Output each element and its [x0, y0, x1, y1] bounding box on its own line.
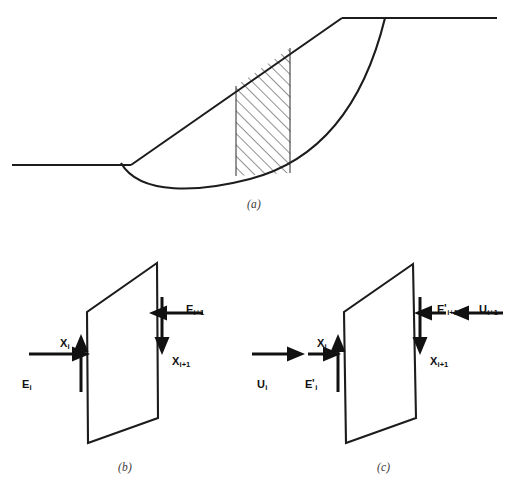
- force-symbol-E: E: [186, 303, 193, 315]
- force-sub-i: i: [68, 342, 70, 351]
- caption-c: (c): [377, 461, 390, 473]
- figure-root: (a) Ei Xi Ei+1 Xi+1: [0, 0, 509, 486]
- force-symbol-U: U: [257, 378, 265, 390]
- force-sub-i1: i+1: [194, 308, 205, 317]
- force-label-Xi1: Xi+1: [172, 355, 190, 367]
- force-label-Epi: E'i: [305, 378, 317, 390]
- panel-a-drawing: [0, 0, 509, 200]
- arrow-Xi: [331, 334, 346, 392]
- force-sub-i: i: [315, 383, 317, 392]
- force-sub-i1: i+1: [180, 360, 191, 369]
- hatched-slice: [236, 48, 290, 176]
- force-label-Xi: Xi: [317, 337, 326, 349]
- panel-c-drawing: [250, 240, 509, 486]
- force-symbol-U: U: [479, 303, 487, 315]
- force-label-Ui: Ui: [257, 378, 267, 390]
- force-label-Xi: Xi: [60, 337, 69, 349]
- arrow-Ui: [252, 347, 305, 362]
- force-symbol-X: X: [60, 337, 67, 349]
- slice-quadrilateral-c: [344, 264, 416, 443]
- force-label-Epi1: E'i+1: [437, 303, 458, 315]
- force-label-Ei: Ei: [22, 378, 31, 390]
- panel-b-drawing: [0, 240, 260, 486]
- force-symbol-X: X: [172, 355, 179, 367]
- force-label-Ui1: Ui+1: [479, 303, 498, 315]
- force-label-Ei1: Ei+1: [186, 303, 204, 315]
- force-symbol-X: X: [317, 337, 324, 349]
- force-label-Xi1: Xi+1: [430, 355, 448, 367]
- slice-quadrilateral-b: [87, 263, 158, 443]
- force-sub-i1: i+1: [487, 308, 498, 317]
- force-symbol-E: E: [22, 378, 29, 390]
- force-sub-i: i: [325, 342, 327, 351]
- force-sub-i1: i+1: [438, 360, 449, 369]
- force-symbol-X: X: [430, 355, 437, 367]
- caption-b: (b): [118, 461, 132, 473]
- caption-a: (a): [247, 198, 261, 210]
- force-sub-i: i: [265, 383, 267, 392]
- force-sub-i: i: [30, 383, 32, 392]
- force-sub-i1: i+1: [447, 308, 458, 317]
